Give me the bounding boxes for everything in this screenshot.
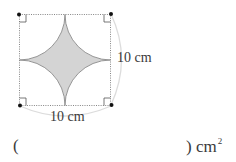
right-side-length-label: 10 cm xyxy=(117,51,152,65)
unit-exponent: 2 xyxy=(218,136,223,146)
unit-label: cm xyxy=(196,137,217,156)
answer-blank-field[interactable] xyxy=(26,135,181,157)
answer-open-paren: ( xyxy=(13,137,19,154)
shaded-star-region xyxy=(20,15,111,106)
bottom-side-length-label: 10 cm xyxy=(50,110,85,124)
answer-unit: ) cm2 xyxy=(186,137,222,155)
answer-close-paren: ) xyxy=(186,137,192,156)
